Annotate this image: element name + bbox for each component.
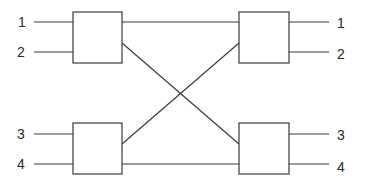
- input-label-1: 1: [18, 14, 26, 30]
- input-label-4: 4: [17, 156, 25, 172]
- input-label-3: 3: [17, 126, 25, 142]
- switch-top-left: [73, 12, 122, 63]
- input-label-2: 2: [17, 44, 25, 60]
- switch-bottom-right: [239, 123, 289, 174]
- output-label-1: 1: [337, 15, 345, 31]
- switch-bottom-left: [73, 123, 122, 174]
- output-label-3: 3: [337, 127, 345, 143]
- switch-network-diagram: 1 2 3 4 1 2 3 4: [0, 0, 369, 186]
- output-label-2: 2: [337, 46, 345, 62]
- output-label-4: 4: [337, 159, 345, 175]
- switch-top-right: [239, 12, 289, 63]
